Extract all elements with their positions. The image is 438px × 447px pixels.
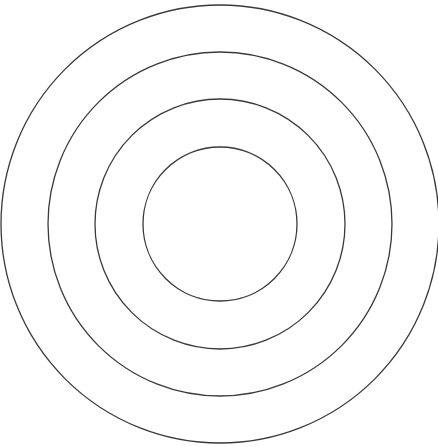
ring-outer: [1, 5, 438, 443]
ring-inner: [143, 147, 297, 301]
ring-third: [48, 52, 392, 396]
concentric-circles-diagram: [0, 0, 438, 447]
rings-group: [1, 5, 438, 443]
ring-second: [95, 99, 345, 349]
